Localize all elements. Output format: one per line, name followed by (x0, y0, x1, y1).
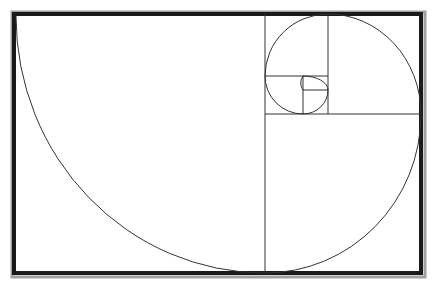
golden-rectangle-frame (14, 14, 421, 273)
golden-spiral-diagram (0, 0, 436, 287)
